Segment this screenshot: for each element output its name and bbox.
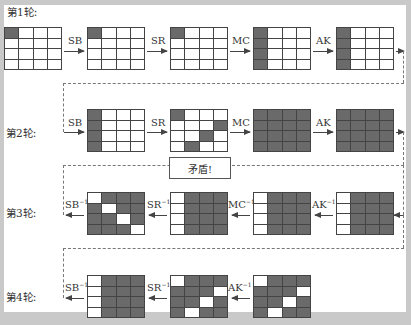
active-byte-cell — [297, 276, 310, 286]
active-byte-cell — [297, 121, 310, 131]
state-grid — [87, 275, 145, 318]
connector-line — [63, 248, 64, 298]
inactive-byte-cell — [171, 193, 184, 203]
op-label: SB−1 — [65, 281, 88, 293]
inactive-byte-cell — [117, 110, 130, 120]
active-byte-cell — [297, 308, 310, 318]
inactive-byte-cell — [185, 131, 198, 141]
active-byte-cell — [351, 225, 364, 235]
inactive-byte-cell — [131, 49, 144, 59]
inactive-byte-cell — [254, 214, 267, 224]
diagram-panel: 第1轮: 第2轮: 第3轮: 第4轮: SB SR MC AK SB SR MC… — [4, 5, 406, 312]
inactive-byte-cell — [185, 28, 198, 38]
active-byte-cell — [366, 204, 379, 214]
active-byte-cell — [200, 193, 213, 203]
connector-line — [403, 215, 404, 248]
inactive-byte-cell — [297, 60, 310, 70]
active-byte-cell — [283, 193, 296, 203]
active-byte-cell — [5, 28, 18, 38]
inactive-byte-cell — [214, 39, 227, 49]
active-byte-cell — [102, 193, 115, 203]
inactive-byte-cell — [366, 28, 379, 38]
active-byte-cell — [268, 193, 281, 203]
inactive-byte-cell — [214, 110, 227, 120]
op-label: SR — [151, 35, 165, 46]
active-byte-cell — [254, 28, 267, 38]
active-byte-cell — [185, 225, 198, 235]
active-byte-cell — [351, 121, 364, 131]
inactive-byte-cell — [171, 39, 184, 49]
active-byte-cell — [254, 287, 267, 297]
inactive-byte-cell — [366, 60, 379, 70]
active-byte-cell — [185, 287, 198, 297]
active-byte-cell — [337, 142, 350, 152]
inactive-byte-cell — [19, 60, 32, 70]
inactive-byte-cell — [283, 28, 296, 38]
arrow-right-icon — [313, 51, 333, 52]
inactive-byte-cell — [102, 142, 115, 152]
inactive-byte-cell — [254, 225, 267, 235]
inactive-byte-cell — [380, 28, 393, 38]
active-byte-cell — [337, 110, 350, 120]
active-byte-cell — [297, 225, 310, 235]
inactive-byte-cell — [117, 39, 130, 49]
inactive-byte-cell — [297, 28, 310, 38]
active-byte-cell — [214, 121, 227, 131]
active-byte-cell — [88, 204, 101, 214]
active-byte-cell — [254, 110, 267, 120]
inactive-byte-cell — [214, 131, 227, 141]
active-byte-cell — [366, 142, 379, 152]
inactive-byte-cell — [171, 121, 184, 131]
connector-line — [403, 132, 404, 165]
arrow-right-icon — [147, 51, 167, 52]
inactive-byte-cell — [102, 39, 115, 49]
active-byte-cell — [117, 193, 130, 203]
op-label: MC — [232, 117, 250, 128]
active-byte-cell — [131, 214, 144, 224]
active-byte-cell — [283, 276, 296, 286]
inactive-byte-cell — [283, 297, 296, 307]
inactive-byte-cell — [102, 49, 115, 59]
inactive-byte-cell — [102, 110, 115, 120]
inactive-byte-cell — [131, 142, 144, 152]
state-grid — [253, 275, 311, 318]
active-byte-cell — [131, 287, 144, 297]
inactive-byte-cell — [185, 110, 198, 120]
inactive-byte-cell — [214, 49, 227, 59]
inverse-superscript: −1 — [161, 198, 170, 205]
inactive-byte-cell — [88, 39, 101, 49]
active-byte-cell — [254, 39, 267, 49]
active-byte-cell — [380, 121, 393, 131]
inactive-byte-cell — [131, 39, 144, 49]
inactive-byte-cell — [88, 297, 101, 307]
op-name: MC — [228, 199, 246, 210]
active-byte-cell — [214, 225, 227, 235]
active-byte-cell — [117, 225, 130, 235]
active-byte-cell — [102, 276, 115, 286]
op-label: SB — [68, 35, 82, 46]
inactive-byte-cell — [131, 60, 144, 70]
active-byte-cell — [283, 225, 296, 235]
arrow-right-icon — [64, 51, 84, 52]
arrow-right-icon — [313, 132, 333, 133]
active-byte-cell — [380, 193, 393, 203]
connector-line — [403, 165, 404, 215]
inactive-byte-cell — [88, 287, 101, 297]
active-byte-cell — [268, 142, 281, 152]
inactive-byte-cell — [214, 287, 227, 297]
op-label: AK−1 — [312, 198, 336, 210]
active-byte-cell — [380, 142, 393, 152]
op-label: AK — [316, 117, 331, 128]
inactive-byte-cell — [200, 121, 213, 131]
inactive-byte-cell — [185, 49, 198, 59]
inactive-byte-cell — [200, 60, 213, 70]
inactive-byte-cell — [351, 60, 364, 70]
inactive-byte-cell — [200, 142, 213, 152]
active-byte-cell — [283, 287, 296, 297]
inactive-byte-cell — [171, 131, 184, 141]
active-byte-cell — [380, 110, 393, 120]
active-byte-cell — [254, 60, 267, 70]
active-byte-cell — [200, 225, 213, 235]
active-byte-cell — [283, 204, 296, 214]
active-byte-cell — [200, 131, 213, 141]
